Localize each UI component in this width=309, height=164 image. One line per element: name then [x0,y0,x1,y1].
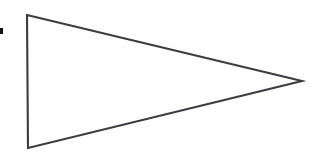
line-drawing-figure [0,0,309,164]
figure-canvas [0,0,309,164]
left-edge-square-mark-icon [0,28,3,34]
